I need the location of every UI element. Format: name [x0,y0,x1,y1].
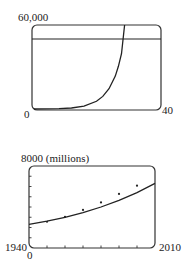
data-point [136,185,138,187]
y-max-label: 8000 (millions) [21,152,89,165]
y-max-label: 60,000 [18,11,49,23]
exponential-curve [34,25,125,109]
chart-exponential: 60,000 0 40 [18,11,174,120]
x-min-label: 0 [24,108,30,120]
y-min-label: 0 [27,249,33,261]
x-min-label: 1940 [5,241,28,253]
data-point [118,193,120,195]
x-max-label: 40 [162,104,174,116]
charts-canvas: 60,000 0 40 8000 (millions) 1940 0 2010 [0,0,187,274]
plot-frame [32,25,161,110]
data-point [46,221,48,223]
data-point [82,209,84,211]
plot-frame [29,166,155,248]
x-max-label: 2010 [159,241,182,253]
population-curve [29,183,155,224]
data-point [100,201,102,203]
data-point [64,216,66,218]
chart-population: 8000 (millions) 1940 0 2010 [5,152,182,261]
